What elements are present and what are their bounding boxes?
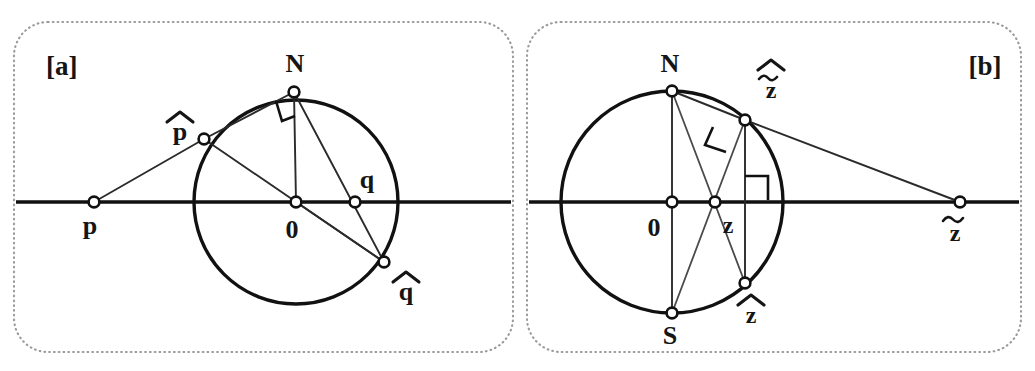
segment-S-to-z-hat-tilde — [672, 120, 745, 313]
panel-b-right-angle-marker-at-z-hat-tilde — [705, 127, 726, 152]
panel-b: [b] N 0 S z — [527, 22, 1021, 352]
segment-z-hat-tilde-to-z-tilde — [745, 120, 960, 202]
point-S — [667, 308, 678, 319]
point-q — [350, 197, 361, 208]
segment-N-to-origin — [294, 92, 296, 202]
point-z — [710, 197, 721, 208]
point-q-hat — [379, 257, 390, 268]
point-N — [667, 86, 678, 97]
panel-a-label: [a] — [46, 51, 77, 81]
point-z-tilde — [955, 197, 966, 208]
label-point-z-hat: z — [746, 302, 757, 328]
label-point-origin: 0 — [648, 213, 661, 242]
tilde-accent-z-tilde — [943, 217, 963, 222]
label-point-p-hat: p — [173, 117, 187, 146]
point-p — [89, 197, 100, 208]
label-point-z-hat-tilde-group: z — [758, 60, 784, 103]
panel-b-label: [b] — [969, 51, 1002, 81]
panel-a-right-angle-marker-at-N — [276, 101, 295, 121]
panel-a: [a] p p N — [14, 22, 513, 352]
label-point-z-hat-group: z — [738, 295, 764, 328]
label-point-z: z — [723, 212, 734, 238]
label-point-p-hat-group: p — [167, 112, 193, 146]
label-point-z-tilde-group: z — [943, 217, 963, 246]
stereographic-projection-figure: [a] p p N — [0, 0, 1035, 371]
segment-p-to-p-hat — [94, 139, 204, 202]
point-origin — [291, 197, 302, 208]
label-point-S: S — [663, 321, 677, 350]
label-point-origin: 0 — [286, 215, 299, 244]
point-p-hat — [199, 134, 210, 145]
figure-canvas: [a] p p N — [0, 0, 1035, 371]
label-point-N: N — [661, 49, 680, 78]
point-z-hat — [740, 278, 751, 289]
panel-b-right-angle-marker-at-z-axis — [745, 176, 768, 200]
hat-accent-z-hat-tilde — [758, 60, 784, 70]
point-N — [289, 87, 300, 98]
label-point-q-hat-group: q — [393, 272, 419, 306]
label-point-q: q — [360, 165, 375, 194]
panel-a-frame — [14, 22, 513, 352]
label-point-N: N — [286, 49, 305, 78]
segment-N-to-z-hat — [672, 91, 745, 283]
label-point-q-hat: q — [399, 277, 414, 306]
segment-N-to-z-hat-tilde — [672, 91, 745, 120]
segment-origin-to-q-hat — [296, 202, 384, 262]
label-point-p: p — [83, 211, 97, 240]
label-point-z-tilde: z — [950, 220, 961, 246]
panel-b-frame — [527, 22, 1021, 352]
point-z-hat-tilde — [740, 115, 751, 126]
point-origin — [667, 197, 678, 208]
